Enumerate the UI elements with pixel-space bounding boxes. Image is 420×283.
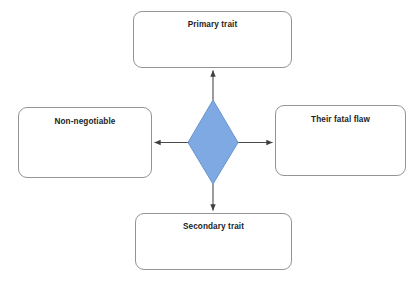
center-diamond-shape[interactable] [188,100,238,184]
node-non-negotiable[interactable]: Non-negotiable [18,107,152,178]
node-secondary-trait-label: Secondary trait [136,223,291,231]
node-primary-trait-label: Primary trait [134,21,291,29]
node-secondary-trait[interactable]: Secondary trait [135,213,292,270]
diagram-canvas: Primary trait Non-negotiable Their fatal… [0,0,420,283]
node-their-fatal-flaw-label: Their fatal flaw [276,116,405,124]
node-their-fatal-flaw[interactable]: Their fatal flaw [275,105,406,176]
node-primary-trait[interactable]: Primary trait [133,11,292,68]
node-non-negotiable-label: Non-negotiable [19,118,151,126]
